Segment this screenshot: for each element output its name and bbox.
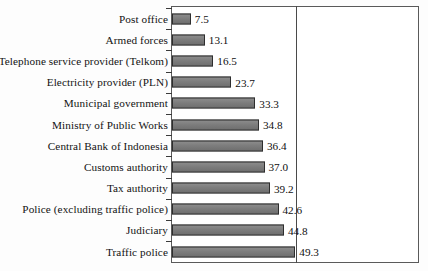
bar-value-label: 16.5	[217, 55, 237, 67]
bar-row: Tax authority 39.2	[0, 178, 428, 199]
bar-container: 33.3	[172, 98, 279, 109]
bar[interactable]	[172, 246, 295, 257]
bar-row: Customs authority 37.0	[0, 156, 428, 177]
bar[interactable]	[172, 183, 270, 194]
category-label: Electricity provider (PLN)	[47, 76, 168, 88]
axis-tick	[166, 135, 172, 136]
category-label: Traffic police	[106, 246, 168, 258]
bar-container: 44.8	[172, 225, 308, 236]
axis-tick	[166, 241, 172, 242]
bar[interactable]	[172, 13, 191, 24]
bar-container: 34.8	[172, 119, 283, 130]
bar-row: Telephone service provider (Telkom) 16.5	[0, 50, 428, 71]
category-label: Municipal government	[64, 97, 168, 109]
bar-container: 37.0	[172, 161, 288, 172]
bar-value-label: 37.0	[269, 161, 289, 173]
bar-rows: Post office 7.5 Armed forces 13.1 Teleph…	[0, 8, 428, 262]
bar-container: 36.4	[172, 140, 287, 151]
category-label: Ministry of Public Works	[52, 119, 168, 131]
bar-container: 7.5	[172, 13, 209, 24]
bar[interactable]	[172, 119, 259, 130]
category-label: Armed forces	[106, 34, 168, 46]
bar-container: 23.7	[172, 77, 255, 88]
bar[interactable]	[172, 98, 255, 109]
bar[interactable]	[172, 77, 231, 88]
bar[interactable]	[172, 204, 279, 215]
bar[interactable]	[172, 34, 205, 45]
bar-container: 49.3	[172, 246, 319, 257]
bar-row: Traffic police 49.3	[0, 241, 428, 262]
bar-row: Central Bank of Indonesia 36.4	[0, 135, 428, 156]
bar[interactable]	[172, 225, 284, 236]
category-label: Police (excluding traffic police)	[22, 203, 168, 215]
bar-value-label: 33.3	[259, 97, 279, 109]
bar-chart: Post office 7.5 Armed forces 13.1 Teleph…	[0, 0, 428, 271]
bar-row: Post office 7.5	[0, 8, 428, 29]
bar-value-label: 34.8	[263, 119, 283, 131]
category-label: Telephone service provider (Telkom)	[0, 55, 168, 67]
category-label: Central Bank of Indonesia	[48, 140, 168, 152]
axis-tick	[166, 220, 172, 221]
bar-value-label: 42.6	[283, 203, 303, 215]
bar-value-label: 39.2	[274, 182, 294, 194]
bar-row: Municipal government 33.3	[0, 93, 428, 114]
bar-value-label: 36.4	[267, 140, 287, 152]
bar-row: Armed forces 13.1	[0, 29, 428, 50]
axis-tick	[166, 50, 172, 51]
axis-tick	[166, 29, 172, 30]
bar-value-label: 49.3	[299, 246, 319, 258]
axis-tick	[166, 72, 172, 73]
bar[interactable]	[172, 55, 213, 66]
bar[interactable]	[172, 140, 263, 151]
bar-value-label: 23.7	[235, 76, 255, 88]
bar[interactable]	[172, 161, 265, 172]
bar-container: 16.5	[172, 55, 237, 66]
bar-container: 13.1	[172, 34, 228, 45]
bar-row: Electricity provider (PLN) 23.7	[0, 72, 428, 93]
category-label: Post office	[119, 13, 168, 25]
axis-tick	[166, 93, 172, 94]
axis-tick	[166, 178, 172, 179]
bar-container: 39.2	[172, 183, 294, 194]
axis-tick	[166, 114, 172, 115]
category-label: Tax authority	[107, 182, 168, 194]
axis-tick	[166, 156, 172, 157]
category-label: Customs authority	[84, 161, 168, 173]
axis-tick	[166, 8, 172, 9]
bar-row: Ministry of Public Works 34.8	[0, 114, 428, 135]
category-label: Judiciary	[126, 224, 168, 236]
bar-value-label: 44.8	[288, 224, 308, 236]
bar-value-label: 13.1	[209, 34, 229, 46]
bar-container: 42.6	[172, 204, 302, 215]
bar-value-label: 7.5	[195, 13, 209, 25]
bar-row: Judiciary 44.8	[0, 220, 428, 241]
axis-tick	[166, 199, 172, 200]
bar-row: Police (excluding traffic police) 42.6	[0, 199, 428, 220]
